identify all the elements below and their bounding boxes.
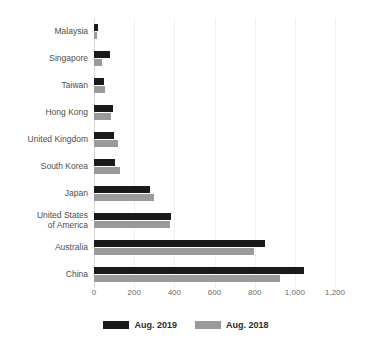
x-tick-label: 1,200 bbox=[325, 288, 345, 297]
bar-2019 bbox=[94, 159, 115, 166]
chart-legend: Aug. 2019Aug. 2018 bbox=[0, 320, 372, 330]
bar-2018 bbox=[94, 86, 105, 93]
bar-group bbox=[94, 186, 335, 201]
category-label: China bbox=[0, 269, 88, 279]
gridline-1200 bbox=[335, 18, 336, 288]
bar-group bbox=[94, 78, 335, 93]
bar-2018 bbox=[94, 113, 111, 120]
bar-group bbox=[94, 105, 335, 120]
bar-group bbox=[94, 24, 335, 39]
legend-label: Aug. 2018 bbox=[226, 320, 269, 330]
bar-2018 bbox=[94, 275, 280, 282]
bar-2018 bbox=[94, 248, 254, 255]
plot-area bbox=[94, 18, 335, 288]
category-label: Australia bbox=[0, 242, 88, 252]
legend-label: Aug. 2019 bbox=[134, 320, 177, 330]
bar-chart: MalaysiaSingaporeTaiwanHong KongUnited K… bbox=[0, 0, 372, 345]
x-tick-label: 1,000 bbox=[285, 288, 305, 297]
x-axis: 02004006008001,0001,200 bbox=[94, 288, 335, 302]
bar-2019 bbox=[94, 186, 150, 193]
x-tick-label: 600 bbox=[208, 288, 221, 297]
bar-2018 bbox=[94, 140, 118, 147]
x-tick-label: 400 bbox=[168, 288, 181, 297]
x-tick-label: 800 bbox=[248, 288, 261, 297]
bar-group bbox=[94, 213, 335, 228]
category-label: Hong Kong bbox=[0, 107, 88, 117]
bar-2019 bbox=[94, 24, 98, 31]
bar-2019 bbox=[94, 267, 304, 274]
bar-group bbox=[94, 240, 335, 255]
bar-2018 bbox=[94, 59, 102, 66]
legend-item[interactable]: Aug. 2019 bbox=[103, 320, 177, 330]
bar-2018 bbox=[94, 167, 120, 174]
bar-2019 bbox=[94, 132, 114, 139]
bar-2019 bbox=[94, 105, 113, 112]
bar-2019 bbox=[94, 213, 171, 220]
category-label: Malaysia bbox=[0, 26, 88, 36]
legend-swatch-icon bbox=[195, 321, 221, 329]
category-label: United States of America bbox=[0, 210, 88, 230]
category-label: United Kingdom bbox=[0, 134, 88, 144]
bar-group bbox=[94, 132, 335, 147]
legend-item[interactable]: Aug. 2018 bbox=[195, 320, 269, 330]
bar-2018 bbox=[94, 32, 97, 39]
bar-group bbox=[94, 51, 335, 66]
legend-swatch-icon bbox=[103, 321, 129, 329]
bar-2019 bbox=[94, 51, 110, 58]
category-label: Singapore bbox=[0, 53, 88, 63]
bar-2019 bbox=[94, 240, 265, 247]
category-axis: MalaysiaSingaporeTaiwanHong KongUnited K… bbox=[0, 18, 88, 288]
bar-group bbox=[94, 267, 335, 282]
bar-2018 bbox=[94, 194, 154, 201]
category-label: Taiwan bbox=[0, 80, 88, 90]
bar-group bbox=[94, 159, 335, 174]
category-label: South Korea bbox=[0, 161, 88, 171]
x-tick-label: 200 bbox=[127, 288, 140, 297]
category-label: Japan bbox=[0, 188, 88, 198]
bar-2019 bbox=[94, 78, 104, 85]
x-tick-label: 0 bbox=[92, 288, 96, 297]
bar-2018 bbox=[94, 221, 170, 228]
